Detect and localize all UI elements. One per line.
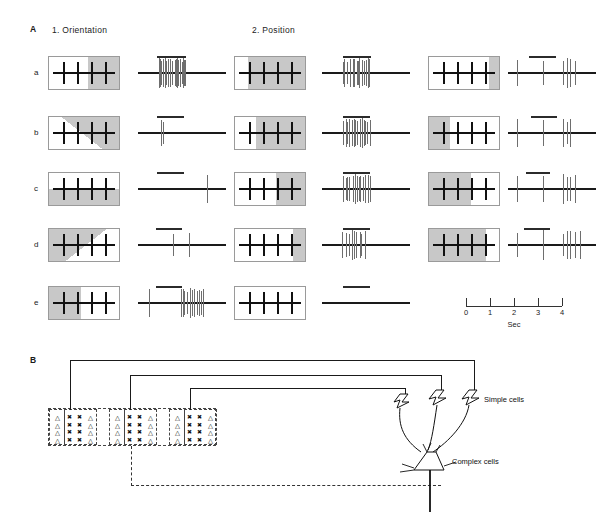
stimulus-bar bbox=[77, 62, 79, 84]
spike-train-baseline bbox=[508, 188, 596, 190]
spike bbox=[352, 230, 353, 259]
stimulus-bar bbox=[277, 178, 279, 200]
time-axis-tick-label: 0 bbox=[464, 308, 468, 317]
stimulus-box-b-1 bbox=[48, 116, 120, 150]
stimulus-bar bbox=[263, 62, 265, 84]
spike-train-a-2 bbox=[322, 56, 410, 90]
row-letter-b: b bbox=[34, 128, 38, 137]
stimulus-bar bbox=[277, 292, 279, 314]
spike-train-e-2 bbox=[322, 286, 410, 320]
label-simple-cells: Simple cells bbox=[484, 395, 524, 404]
spike bbox=[166, 61, 167, 86]
spike bbox=[567, 231, 568, 259]
stimulus-box-d-2 bbox=[234, 228, 306, 262]
stimulus-bar bbox=[249, 234, 251, 256]
stimulus-bar bbox=[471, 178, 473, 200]
spike bbox=[347, 177, 348, 202]
spike-train-baseline bbox=[138, 244, 226, 246]
spike bbox=[370, 176, 371, 202]
stimulus-box-e-2 bbox=[234, 286, 306, 320]
row-letter-e: e bbox=[34, 298, 38, 307]
simple-cell-soma-1 bbox=[462, 390, 479, 405]
spike bbox=[370, 120, 371, 146]
panel-b: B △△△△✖✖✖✖✖✖✖✖△△△△△△△△✖✖✖✖✖✖✖✖△△△△△△△△✖✖… bbox=[0, 340, 614, 517]
spike-train-baseline bbox=[508, 132, 596, 134]
spike bbox=[563, 119, 564, 148]
label-complex-cells: Complex cells bbox=[452, 457, 499, 466]
time-axis-tick bbox=[562, 298, 563, 306]
stimulus-duration-bar bbox=[156, 286, 182, 288]
spike bbox=[349, 119, 350, 146]
spike bbox=[575, 232, 576, 258]
spike-train-baseline bbox=[138, 188, 226, 190]
simple-cell-soma-3 bbox=[394, 394, 409, 408]
stimulus-box-d-3 bbox=[428, 228, 500, 262]
spike bbox=[563, 174, 564, 203]
spike bbox=[354, 59, 355, 88]
spike bbox=[517, 233, 518, 256]
spike bbox=[168, 59, 169, 87]
spike bbox=[580, 231, 581, 260]
spike-train-b-2 bbox=[322, 116, 410, 150]
stimulus-bar bbox=[443, 178, 445, 200]
spike bbox=[350, 61, 351, 84]
stimulus-duration-bar bbox=[156, 228, 182, 230]
stimulus-box-a-1 bbox=[48, 56, 120, 90]
row-letter-d: d bbox=[34, 240, 38, 249]
column-header-orientation: 1. Orientation bbox=[52, 25, 107, 35]
spike bbox=[187, 292, 188, 314]
stimulus-box-a-3 bbox=[428, 56, 500, 90]
spike bbox=[570, 59, 571, 87]
stimulus-box-a-2 bbox=[234, 56, 306, 90]
spike-train-baseline bbox=[322, 244, 410, 246]
stimulus-box-c-1 bbox=[48, 172, 120, 206]
stimulus-bar bbox=[485, 234, 487, 256]
spike bbox=[342, 232, 343, 258]
spike-train-baseline bbox=[508, 72, 596, 74]
stimulus-bar bbox=[471, 234, 473, 256]
axon-1 bbox=[433, 405, 469, 452]
stimulus-bar bbox=[249, 292, 251, 314]
stimulus-bar bbox=[291, 122, 293, 144]
stimulus-bar bbox=[471, 122, 473, 144]
stimulus-bar bbox=[105, 62, 107, 84]
spike-train-d-3 bbox=[508, 228, 596, 262]
stimulus-bar bbox=[63, 292, 65, 314]
spike bbox=[359, 58, 360, 88]
spike bbox=[347, 62, 348, 85]
spike bbox=[357, 176, 358, 201]
stimulus-bar bbox=[91, 62, 93, 84]
time-axis-tick-label: 1 bbox=[488, 308, 492, 317]
stimulus-duration-bar bbox=[157, 172, 183, 174]
spike bbox=[197, 291, 198, 314]
spike bbox=[563, 61, 564, 84]
stimulus-bar bbox=[249, 122, 251, 144]
stimulus-bar bbox=[291, 292, 293, 314]
spike bbox=[366, 60, 367, 87]
stimulus-bar bbox=[457, 62, 459, 84]
spike bbox=[361, 234, 362, 256]
spike-train-a-3 bbox=[508, 56, 596, 90]
spike bbox=[575, 61, 576, 84]
spike bbox=[567, 122, 568, 145]
stimulus-bar bbox=[249, 62, 251, 84]
spike bbox=[543, 120, 544, 146]
row-letter-c: c bbox=[34, 184, 38, 193]
time-axis-tick bbox=[490, 298, 491, 306]
spike-train-d-1 bbox=[138, 228, 226, 262]
spike bbox=[543, 176, 544, 202]
spike bbox=[517, 176, 518, 202]
stimulus-bar bbox=[277, 122, 279, 144]
stimulus-bar bbox=[277, 62, 279, 84]
panel-letter-a: A bbox=[30, 24, 36, 34]
stimulus-bar bbox=[91, 178, 93, 200]
stimulus-bar bbox=[443, 122, 445, 144]
spike bbox=[178, 60, 179, 86]
stimulus-bar bbox=[471, 62, 473, 84]
shade-region bbox=[49, 189, 119, 205]
spike bbox=[163, 122, 164, 144]
spike-train-baseline bbox=[322, 302, 410, 304]
spike bbox=[207, 175, 208, 203]
spike bbox=[346, 233, 347, 256]
spike bbox=[517, 119, 518, 148]
